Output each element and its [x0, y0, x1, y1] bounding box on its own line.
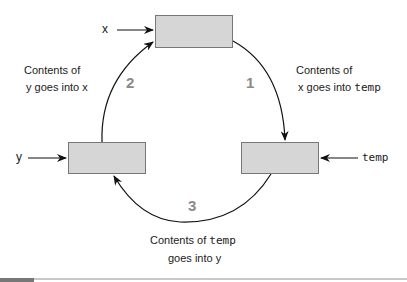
footer-divider	[0, 278, 407, 280]
y-label: y	[16, 150, 22, 165]
footer-marker	[0, 278, 34, 282]
step-2-caption-line2: y goes into x	[26, 80, 88, 95]
step-2-arc	[102, 42, 153, 142]
step-1-arc	[233, 41, 285, 140]
step-3-caption-line2: goes into y	[168, 251, 221, 266]
step-1-caption-line2: x goes into temp	[298, 80, 381, 95]
x-label: x	[102, 22, 108, 37]
temp-variable-box	[241, 142, 319, 174]
y-variable-box	[68, 142, 146, 174]
temp-label: temp	[362, 150, 389, 165]
step-1-number: 1	[246, 74, 254, 91]
step-3-caption-line1: Contents of temp	[150, 233, 236, 248]
step-2-caption-line1: Contents of	[24, 63, 80, 78]
x-variable-box	[155, 15, 233, 48]
step-1-caption-line1: Contents of	[296, 63, 352, 78]
step-3-number: 3	[188, 197, 196, 214]
step-2-number: 2	[126, 74, 134, 91]
